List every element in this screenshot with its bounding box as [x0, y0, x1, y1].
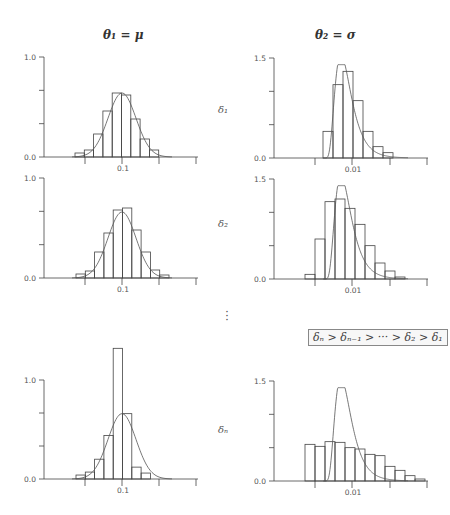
svg-text:0.1: 0.1: [117, 164, 129, 173]
svg-text:0.1: 0.1: [117, 285, 129, 294]
density-curve: [323, 65, 408, 158]
svg-text:1.5: 1.5: [254, 54, 266, 63]
svg-text:1.5: 1.5: [254, 377, 266, 386]
svg-text:0.0: 0.0: [24, 153, 36, 162]
svg-text:0.01: 0.01: [345, 165, 362, 174]
svg-text:0.0: 0.0: [24, 475, 36, 484]
svg-text:0.0: 0.0: [254, 275, 266, 284]
density-curve: [72, 93, 172, 157]
svg-text:0.01: 0.01: [345, 488, 362, 497]
svg-text:1.0: 1.0: [24, 376, 36, 385]
svg-text:1.0: 1.0: [24, 53, 36, 62]
density-curve: [323, 186, 408, 279]
svg-text:1.0: 1.0: [24, 174, 36, 183]
histogram-grid: 0.01.00.10.01.50.010.01.00.10.01.50.010.…: [0, 0, 450, 515]
density-curve: [72, 414, 172, 479]
svg-text:0.1: 0.1: [117, 486, 129, 495]
svg-text:1.5: 1.5: [254, 175, 266, 184]
svg-text:0.01: 0.01: [345, 286, 362, 295]
density-curve: [72, 212, 172, 278]
svg-text:0.0: 0.0: [254, 477, 266, 486]
svg-text:0.0: 0.0: [254, 154, 266, 163]
svg-text:0.0: 0.0: [24, 274, 36, 283]
